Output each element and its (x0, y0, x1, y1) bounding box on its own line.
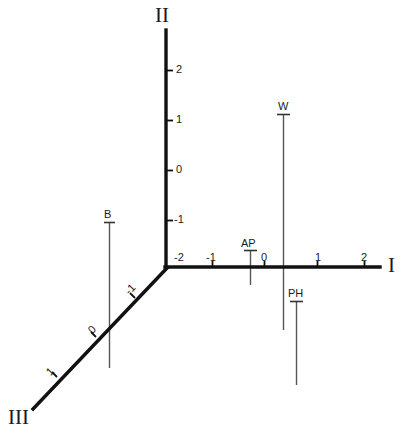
tick-label-I-0: 0 (261, 252, 267, 263)
tick-label-II-n2: -2 (174, 252, 184, 263)
tick-label-I-n1: -1 (206, 252, 216, 263)
coordinate-plot: II I III 2 1 0 -1 -2 -1 0 1 2 -1 0 1 B W… (0, 0, 404, 436)
point-label-B: B (104, 209, 111, 220)
axis-label-I: I (388, 255, 395, 276)
point-label-AP: AP (241, 238, 256, 249)
thin-stem-lines (110, 114, 297, 385)
tick-label-II-n1: -1 (174, 214, 184, 225)
axis-label-II: II (155, 5, 169, 26)
tick-label-I-2: 2 (361, 252, 367, 263)
stem-cap-ticks (104, 115, 303, 302)
tick-label-I-1: 1 (315, 252, 321, 263)
tick-label-II-0: 0 (176, 164, 182, 175)
axis-line-III (33, 268, 167, 409)
tick-label-II-1: 1 (176, 114, 182, 125)
point-label-PH: PH (288, 288, 303, 299)
main-axis-lines (33, 30, 380, 409)
axis-label-III: III (8, 407, 29, 428)
point-label-W: W (278, 101, 288, 112)
axes-svg (0, 0, 404, 436)
tick-label-II-2: 2 (176, 64, 182, 75)
